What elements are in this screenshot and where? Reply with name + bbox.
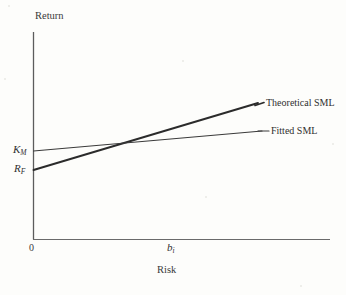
scan-speck xyxy=(8,5,10,7)
series-line-theoretical-sml xyxy=(34,103,259,170)
y-axis-tick-rf-subscript: F xyxy=(21,167,26,176)
y-axis-tick-rf: RF xyxy=(14,163,25,176)
y-axis-tick-km-subscript: M xyxy=(20,148,26,157)
scan-speck xyxy=(332,143,334,145)
scan-speck xyxy=(205,196,207,198)
legend-label-theoretical-sml: Theoretical SML xyxy=(266,98,335,108)
chart-figure: Return Risk 0 bi KM RF Theoretical SML F… xyxy=(0,0,346,295)
y-axis-title: Return xyxy=(35,11,64,22)
scan-speck xyxy=(182,60,184,62)
x-axis-tick-bi-subscript: i xyxy=(173,246,175,255)
x-axis-title: Risk xyxy=(157,265,176,276)
x-axis-tick-origin: 0 xyxy=(29,243,34,253)
legend-label-fitted-sml: Fitted SML xyxy=(271,126,317,136)
y-axis-tick-rf-base: R xyxy=(14,162,21,174)
y-axis-tick-km: KM xyxy=(13,144,27,157)
x-axis-tick-bi: bi xyxy=(167,242,175,255)
series-line-fitted-sml xyxy=(34,131,263,151)
scan-speck xyxy=(4,78,6,80)
scan-speck xyxy=(300,285,302,287)
